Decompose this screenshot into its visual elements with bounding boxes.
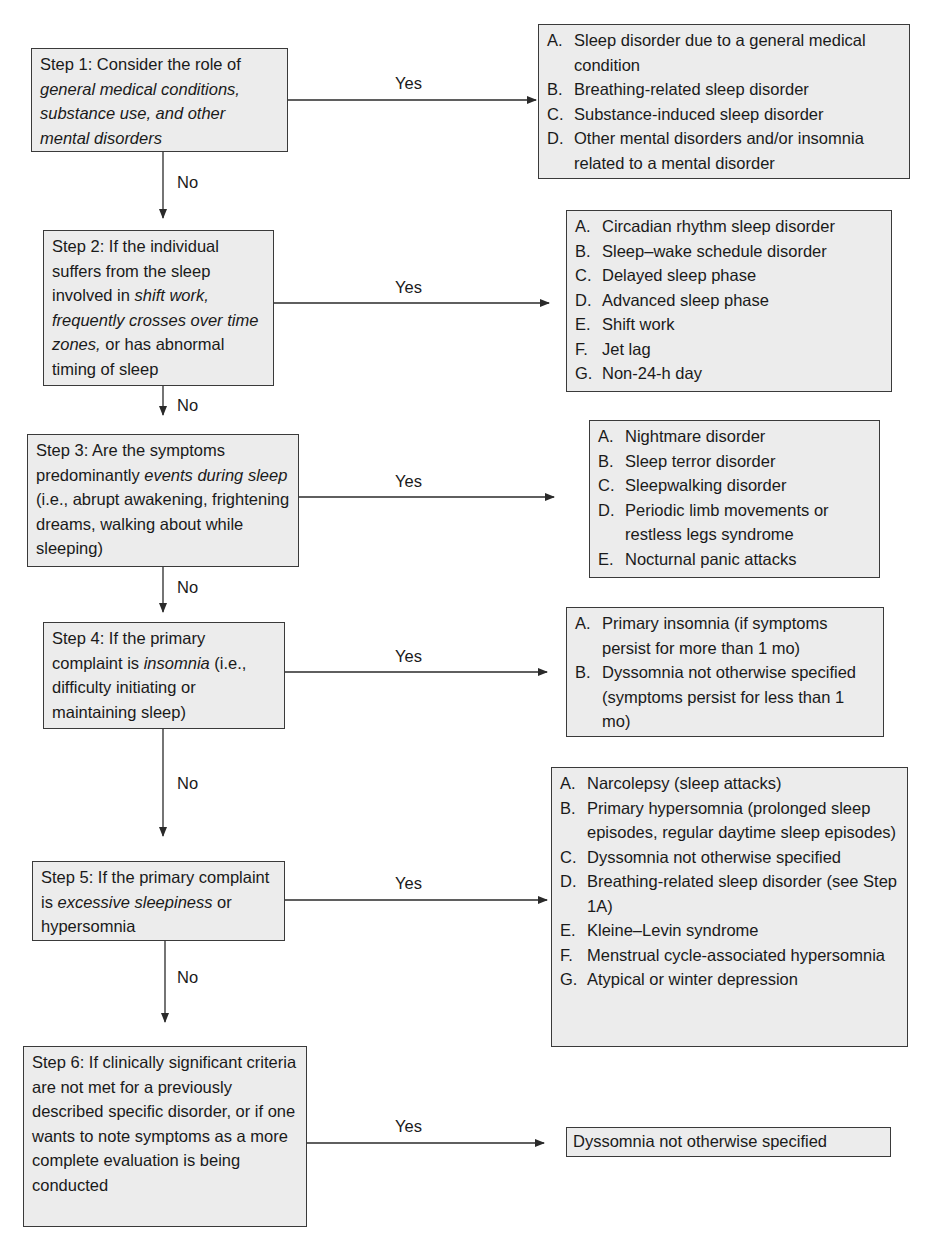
result-1-box: A.Sleep disorder due to a general medica… xyxy=(538,24,910,179)
result-list-item: D.Advanced sleep phase xyxy=(575,288,883,313)
item-text: Sleep terror disorder xyxy=(625,452,775,470)
result-list-item: E.Kleine–Levin syndrome xyxy=(560,918,899,943)
item-letter: F. xyxy=(575,337,588,362)
item-letter: B. xyxy=(547,77,563,102)
item-text: Kleine–Levin syndrome xyxy=(587,921,759,939)
item-letter: B. xyxy=(560,796,576,821)
item-letter: E. xyxy=(560,918,576,943)
step-text-segment: (i.e., abrupt awakening, frightening dre… xyxy=(36,490,289,557)
item-letter: B. xyxy=(598,449,614,474)
step-3-box: Step 3: Are the symptoms predominantly e… xyxy=(27,434,299,567)
item-letter: A. xyxy=(560,771,576,796)
item-letter: C. xyxy=(598,473,615,498)
item-letter: E. xyxy=(575,312,591,337)
yes-label-3: Yes xyxy=(395,472,422,491)
no-label-4: No xyxy=(177,774,198,793)
item-text: Advanced sleep phase xyxy=(602,291,769,309)
item-text: Narcolepsy (sleep attacks) xyxy=(587,774,781,792)
item-letter: C. xyxy=(560,845,577,870)
result-list-item: F.Jet lag xyxy=(575,337,883,362)
item-text: Circadian rhythm sleep disorder xyxy=(602,217,835,235)
yes-label-2: Yes xyxy=(395,278,422,297)
item-text: Primary hypersomnia (prolonged sleep epi… xyxy=(587,799,896,842)
result-list-item: D.Other mental disorders and/or insomnia… xyxy=(547,126,901,175)
item-letter: A. xyxy=(547,28,563,53)
result-list-item: G.Non-24-h day xyxy=(575,361,883,386)
step-text-segment: Step 6: If clinically significant criter… xyxy=(32,1053,296,1194)
item-text: Jet lag xyxy=(602,340,651,358)
item-letter: A. xyxy=(598,424,614,449)
result-6-text: Dyssomnia not otherwise specified xyxy=(573,1132,827,1150)
item-letter: B. xyxy=(575,660,591,685)
item-letter: E. xyxy=(598,547,614,572)
result-list-item: F.Menstrual cycle-associated hypersomnia xyxy=(560,943,899,968)
result-list-item: B.Sleep–wake schedule disorder xyxy=(575,239,883,264)
result-3-box: A.Nightmare disorderB.Sleep terror disor… xyxy=(589,420,880,578)
result-list-item: G.Atypical or winter depression xyxy=(560,967,899,992)
result-2-box: A.Circadian rhythm sleep disorderB.Sleep… xyxy=(566,210,892,392)
result-list-item: B.Primary hypersomnia (prolonged sleep e… xyxy=(560,796,899,845)
item-text: Breathing-related sleep disorder (see St… xyxy=(587,872,897,915)
result-list-item: A.Circadian rhythm sleep disorder xyxy=(575,214,883,239)
item-text: Nocturnal panic attacks xyxy=(625,550,797,568)
result-list-item: C.Dyssomnia not otherwise specified xyxy=(560,845,899,870)
yes-label-1: Yes xyxy=(395,74,422,93)
no-label-5: No xyxy=(177,968,198,987)
item-text: Non-24-h day xyxy=(602,364,702,382)
result-list-item: C.Delayed sleep phase xyxy=(575,263,883,288)
step-6-box: Step 6: If clinically significant criter… xyxy=(23,1046,307,1227)
item-letter: D. xyxy=(547,126,564,151)
step-text-segment: insomnia xyxy=(144,654,210,672)
result-list-item: E.Shift work xyxy=(575,312,883,337)
item-text: Other mental disorders and/or insomnia r… xyxy=(574,129,864,172)
yes-label-5: Yes xyxy=(395,874,422,893)
result-list-item: A.Narcolepsy (sleep attacks) xyxy=(560,771,899,796)
item-text: Primary insomnia (if symptoms persist fo… xyxy=(602,614,828,657)
item-text: Dyssomnia not otherwise specified xyxy=(587,848,841,866)
item-text: Sleep disorder due to a general medical … xyxy=(574,31,866,74)
item-text: Dyssomnia not otherwise specified (sympt… xyxy=(602,663,856,730)
result-4-box: A.Primary insomnia (if symptoms persist … xyxy=(566,607,884,737)
item-text: Breathing-related sleep disorder xyxy=(574,80,809,98)
result-5-box: A.Narcolepsy (sleep attacks)B.Primary hy… xyxy=(551,767,908,1047)
item-letter: B. xyxy=(575,239,591,264)
item-letter: F. xyxy=(560,943,573,968)
item-letter: G. xyxy=(560,967,577,992)
item-letter: D. xyxy=(575,288,592,313)
result-list-item: E.Nocturnal panic attacks xyxy=(598,547,871,572)
item-text: Menstrual cycle-associated hypersomnia xyxy=(587,946,885,964)
item-letter: A. xyxy=(575,214,591,239)
result-list-item: C.Sleepwalking disorder xyxy=(598,473,871,498)
item-letter: D. xyxy=(560,869,577,894)
step-text-segment: excessive sleepiness xyxy=(58,893,213,911)
yes-label-4: Yes xyxy=(395,647,422,666)
result-6-box: Dyssomnia not otherwise specified xyxy=(566,1127,891,1157)
result-list-item: B.Dyssomnia not otherwise specified (sym… xyxy=(575,660,875,734)
step-1-box: Step 1: Consider the role of general med… xyxy=(31,48,288,152)
no-label-2: No xyxy=(177,396,198,415)
item-text: Nightmare disorder xyxy=(625,427,765,445)
result-list-item: C.Substance-induced sleep disorder xyxy=(547,102,901,127)
item-text: Sleep–wake schedule disorder xyxy=(602,242,827,260)
item-letter: C. xyxy=(575,263,592,288)
step-4-box: Step 4: If the primary complaint is inso… xyxy=(43,622,285,729)
item-text: Shift work xyxy=(602,315,674,333)
step-5-box: Step 5: If the primary complaint is exce… xyxy=(32,861,285,941)
result-list-item: D.Periodic limb movements or restless le… xyxy=(598,498,871,547)
item-text: Sleepwalking disorder xyxy=(625,476,786,494)
item-text: Periodic limb movements or restless legs… xyxy=(625,501,829,544)
item-letter: A. xyxy=(575,611,591,636)
result-list-item: B.Breathing-related sleep disorder xyxy=(547,77,901,102)
step-text-segment: events during sleep xyxy=(144,466,287,484)
step-2-box: Step 2: If the individual suffers from t… xyxy=(43,230,274,386)
result-list-item: A.Primary insomnia (if symptoms persist … xyxy=(575,611,875,660)
item-letter: D. xyxy=(598,498,615,523)
step-text-segment: general medical conditions, substance us… xyxy=(40,80,240,147)
result-list-item: A.Sleep disorder due to a general medica… xyxy=(547,28,901,77)
no-label-1: No xyxy=(177,173,198,192)
item-letter: G. xyxy=(575,361,592,386)
yes-label-6: Yes xyxy=(395,1117,422,1136)
item-text: Atypical or winter depression xyxy=(587,970,798,988)
item-letter: C. xyxy=(547,102,564,127)
no-label-3: No xyxy=(177,578,198,597)
